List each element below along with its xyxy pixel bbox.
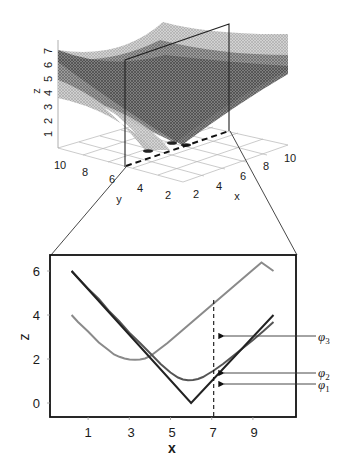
x-tick: 3 [127,425,134,440]
zoom-connector-left [51,167,126,255]
x-tick: 8 [263,160,269,172]
y-tick: 4 [137,182,143,194]
y-tick: 10 [54,159,66,171]
x-tick: 9 [250,425,257,440]
x-axis-label: x [168,440,176,456]
z-tick: 2 [33,352,40,367]
z-tick: 6 [33,264,40,279]
z-tick: 2 [42,118,54,124]
x-tick: 1 [84,425,91,440]
y-tick: 8 [82,166,88,178]
min-phi3 [143,149,153,153]
x-tick: 7 [209,425,216,440]
surface-plot-3d: 1 2 3 4 5 6 7 z 10 8 6 4 2 y 2 4 6 8 10 … [30,22,296,205]
x-tick: 4 [216,180,222,192]
zoom-connector-right [230,131,297,255]
min-phi2 [167,141,177,145]
z-axis-label-3d: z [30,88,42,94]
slice-line-plot: φ3 φ2 φ1 6 4 2 0 z 1 3 5 7 9 x [16,255,330,456]
z-tick: 0 [33,396,40,411]
z-tick: 3 [42,104,54,110]
z-axis-label: z [16,334,32,341]
x-tick: 10 [284,152,296,164]
z-tick: 5 [42,76,54,82]
z-tick: 4 [33,308,40,323]
x-tick: 2 [193,188,199,200]
x-tick: 6 [240,170,246,182]
x-ticks-3d: 2 4 6 8 10 x [193,152,296,202]
z-tick: 6 [42,62,54,68]
y-tick: 2 [165,189,171,201]
y-axis-label-3d: y [116,193,122,205]
x-tick: 5 [168,425,175,440]
label-phi3: φ3 [318,329,330,346]
figure: 1 2 3 4 5 6 7 z 10 8 6 4 2 y 2 4 6 8 10 … [0,0,346,476]
z-tick: 1 [42,131,54,137]
z-tick: 7 [42,48,54,54]
y-ticks-3d: 10 8 6 4 2 y [54,159,171,205]
z-ticks-3d: 1 2 3 4 5 6 7 z [30,48,54,137]
x-axis-label-3d: x [234,190,240,202]
z-tick: 4 [42,90,54,96]
